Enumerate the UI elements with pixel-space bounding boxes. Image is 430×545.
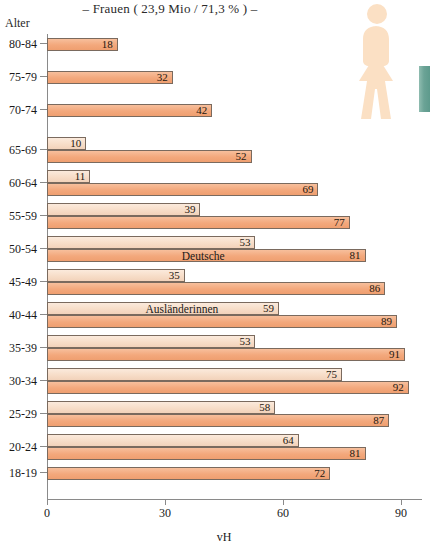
bar-value-label: 35 [169, 270, 184, 281]
bar-value-label: 58 [259, 402, 274, 413]
bar-value-label: 53 [239, 336, 254, 347]
bar-deutsche[interactable]: 32 [47, 71, 173, 84]
category-label: 45-49 [9, 276, 37, 288]
x-axis-line [47, 499, 422, 500]
bar-value-label: 77 [334, 217, 349, 228]
bar-row-group: 60-641169 [47, 168, 422, 201]
bar-value-label: 10 [70, 138, 85, 149]
x-axis-tick-label: 0 [44, 507, 50, 519]
y-axis-tick [40, 380, 47, 381]
bar-value-label: 52 [236, 151, 251, 162]
y-axis-tick [40, 43, 47, 44]
x-axis-tick-label: 30 [159, 507, 171, 519]
bar-row-group: 75-7932 [47, 69, 422, 102]
bar-value-label: 81 [350, 250, 365, 261]
bar-value-label: 72 [314, 468, 329, 479]
y-axis-tick [40, 248, 47, 249]
x-axis-tick [47, 500, 48, 505]
bar-deutsche[interactable]: 18 [47, 38, 118, 51]
bar-deutsche[interactable]: 86 [47, 282, 385, 295]
bar-deutsche[interactable]: 42 [47, 104, 212, 117]
bar-deutsche[interactable]: 89 [47, 315, 397, 328]
category-label: 25-29 [9, 408, 37, 420]
y-axis-tick [40, 76, 47, 77]
category-label: 20-24 [9, 441, 37, 453]
bar-value-label: 59 [263, 303, 278, 314]
series-annotation: Ausländerinnen [145, 303, 218, 315]
y-axis-title: Alter [5, 16, 30, 31]
y-axis-tick [40, 149, 47, 150]
category-label: 70-74 [9, 104, 37, 116]
bar-ausländerinnen[interactable]: 75 [47, 368, 342, 381]
bar-row-group: 30-347592 [47, 366, 422, 399]
category-label: 55-59 [9, 210, 37, 222]
bar-value-label: 81 [350, 448, 365, 459]
x-axis-tick-label: 60 [277, 507, 289, 519]
bar-row-group: 20-246481 [47, 432, 422, 465]
x-axis-tick [165, 500, 166, 505]
bar-row-group: 80-8418 [47, 36, 422, 69]
bar-row-group: 70-7442 [47, 102, 422, 135]
bar-value-label: 11 [75, 171, 90, 182]
bar-row-group: 50-545381Deutsche [47, 234, 422, 267]
bar-value-label: 18 [102, 39, 117, 50]
category-label: 80-84 [9, 38, 37, 50]
y-axis-tick [40, 472, 47, 473]
x-axis-tick-label: 90 [395, 507, 407, 519]
x-axis-tick [401, 500, 402, 505]
bar-row-group: 35-395391 [47, 333, 422, 366]
bar-ausländerinnen[interactable]: 39 [47, 203, 200, 216]
bar-value-label: 42 [196, 105, 211, 116]
bar-deutsche[interactable]: 69 [47, 183, 318, 196]
bar-row-group: 40-4459Ausländerinnen89 [47, 300, 422, 333]
x-axis-tick [283, 500, 284, 505]
category-label: 65-69 [9, 144, 37, 156]
bar-ausländerinnen[interactable]: 53 [47, 236, 255, 249]
y-axis-tick [40, 215, 47, 216]
y-axis-tick [40, 314, 47, 315]
y-axis-tick [40, 446, 47, 447]
category-label: 18-19 [9, 467, 37, 479]
bar-deutsche[interactable]: 77 [47, 216, 350, 229]
bar-value-label: 64 [283, 435, 298, 446]
bar-row-group: 18-1972 [47, 465, 422, 498]
y-axis-tick [40, 347, 47, 348]
bar-deutsche[interactable]: 52 [47, 150, 252, 163]
bar-ausländerinnen[interactable]: 58 [47, 401, 275, 414]
bar-deutsche[interactable]: 92 [47, 381, 409, 394]
bar-row-group: 25-295887 [47, 399, 422, 432]
bar-ausländerinnen[interactable]: 10 [47, 137, 86, 150]
chart-title: – Frauen ( 23,9 Mio / 71,3 % ) – [0, 1, 340, 17]
bar-ausländerinnen[interactable]: 35 [47, 269, 185, 282]
bar-deutsche[interactable]: 72 [47, 467, 330, 480]
category-label: 60-64 [9, 177, 37, 189]
category-label: 35-39 [9, 342, 37, 354]
bar-deutsche[interactable]: 81Deutsche [47, 249, 366, 262]
series-annotation: Deutsche [182, 250, 225, 262]
bar-value-label: 86 [369, 283, 384, 294]
x-axis-title: vH [217, 530, 232, 545]
plot-area: 80-841875-793270-744265-69105260-6411695… [47, 34, 422, 500]
bar-deutsche[interactable]: 81 [47, 447, 366, 460]
bar-value-label: 53 [239, 237, 254, 248]
y-axis-tick [40, 413, 47, 414]
bar-ausländerinnen[interactable]: 59Ausländerinnen [47, 302, 279, 315]
category-label: 40-44 [9, 309, 37, 321]
y-axis-tick [40, 281, 47, 282]
bar-value-label: 39 [184, 204, 199, 215]
category-label: 75-79 [9, 71, 37, 83]
bar-value-label: 32 [157, 72, 172, 83]
y-axis-tick [40, 109, 47, 110]
bar-ausländerinnen[interactable]: 11 [47, 170, 90, 183]
bar-row-group: 55-593977 [47, 201, 422, 234]
bar-value-label: 69 [302, 184, 317, 195]
bar-value-label: 92 [393, 382, 408, 393]
bar-deutsche[interactable]: 91 [47, 348, 405, 361]
bar-deutsche[interactable]: 87 [47, 414, 389, 427]
bar-value-label: 75 [326, 369, 341, 380]
bar-value-label: 89 [381, 316, 396, 327]
bar-value-label: 87 [373, 415, 388, 426]
bar-ausländerinnen[interactable]: 64 [47, 434, 299, 447]
bar-ausländerinnen[interactable]: 53 [47, 335, 255, 348]
